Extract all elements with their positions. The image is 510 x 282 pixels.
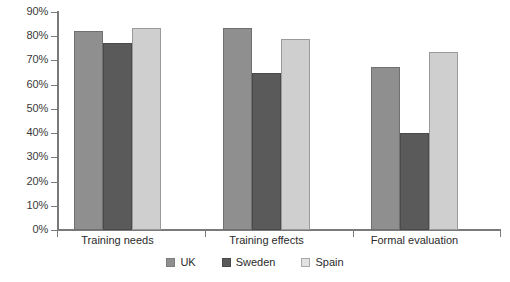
y-axis-tick-label-text: 0% (2, 224, 48, 235)
y-axis-line (57, 11, 59, 231)
legend-swatch-icon (301, 258, 310, 267)
y-axis-tick-label-text: 70% (2, 54, 48, 65)
x-axis-separator-tick (500, 231, 501, 237)
legend-label: Sweden (236, 256, 276, 268)
y-axis-tick (51, 109, 58, 110)
bar-uk-1 (223, 28, 252, 230)
legend-label: UK (180, 256, 195, 268)
y-axis-tick-label-text: 30% (2, 151, 48, 162)
y-axis-tick (51, 85, 58, 86)
legend-swatch-icon (166, 258, 175, 267)
bar-spain-2 (429, 52, 458, 230)
y-axis-tick (51, 157, 58, 158)
y-axis-tick-label-text: 10% (2, 200, 48, 211)
bar-sweden-0 (103, 43, 132, 230)
y-axis-tick-label-text: 60% (2, 79, 48, 90)
legend-item-spain[interactable]: Spain (301, 256, 343, 268)
y-axis-tick (51, 206, 58, 207)
y-axis-tick-label-text: 50% (2, 103, 48, 114)
bar-spain-1 (281, 39, 310, 230)
y-axis-tick-label-text: 90% (2, 6, 48, 17)
bar-sweden-2 (400, 133, 429, 230)
y-axis-tick (51, 12, 58, 13)
x-axis-category-label: Formal evaluation (345, 234, 485, 247)
bar-sweden-1 (252, 73, 281, 230)
x-axis-category-label: Training effects (197, 234, 337, 247)
bar-uk-2 (371, 67, 400, 231)
legend-label: Spain (315, 256, 343, 268)
legend-item-uk[interactable]: UK (166, 256, 195, 268)
y-axis-tick-label-text: 40% (2, 127, 48, 138)
legend-swatch-icon (222, 258, 231, 267)
legend-item-sweden[interactable]: Sweden (222, 256, 276, 268)
y-axis-tick (51, 36, 58, 37)
y-axis-tick (51, 60, 58, 61)
y-axis-tick-label-text: 80% (2, 30, 48, 41)
y-axis-tick (51, 133, 58, 134)
y-axis-tick (51, 182, 58, 183)
bar-chart: 0%10%20%30%40%50%60%70%80%90% Training n… (0, 0, 510, 282)
bar-spain-0 (132, 28, 161, 230)
y-axis-tick-label-text: 20% (2, 176, 48, 187)
bar-uk-0 (74, 31, 103, 230)
chart-legend: UKSwedenSpain (0, 256, 510, 268)
x-axis-category-label: Training needs (48, 234, 188, 247)
